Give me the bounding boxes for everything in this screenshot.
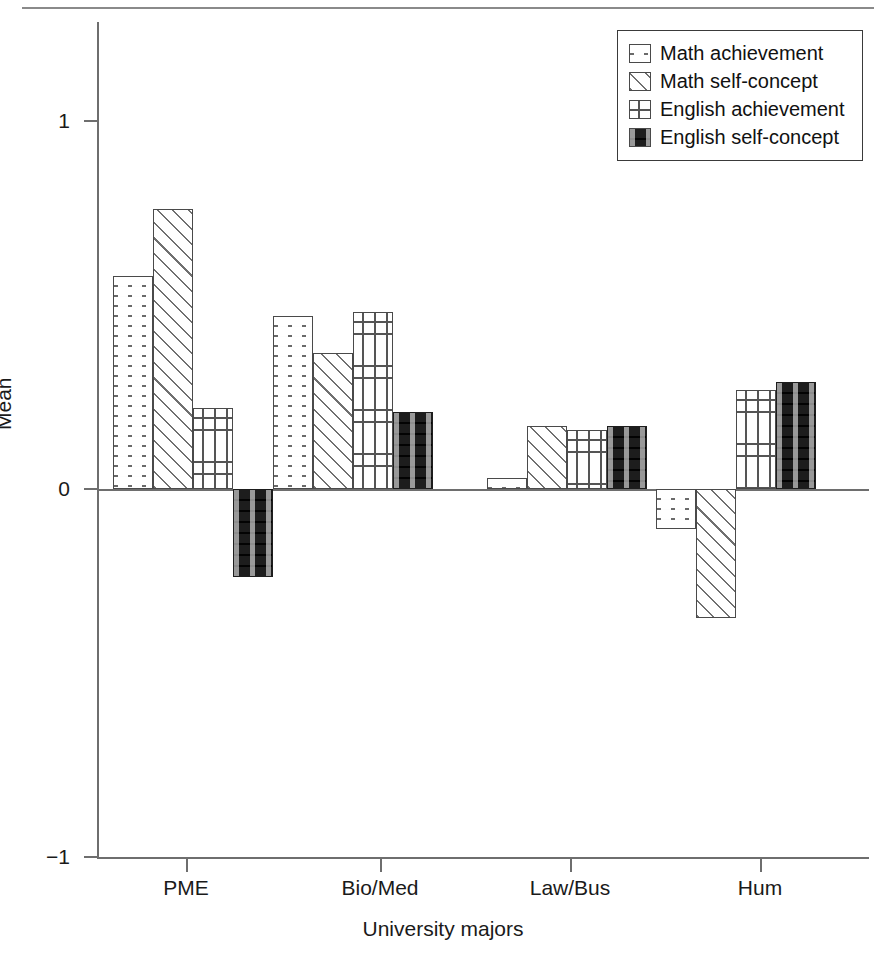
legend-item-label: Math achievement bbox=[660, 43, 823, 63]
bar bbox=[696, 489, 736, 618]
legend-item: English achievement bbox=[629, 95, 852, 123]
legend-item-label: Math self-concept bbox=[660, 71, 818, 91]
bar-chart-figure: Mean University majors 10−1 PMEBio/MedLa… bbox=[0, 0, 886, 969]
x-tick-label: Law/Bus bbox=[490, 876, 650, 900]
bar bbox=[567, 430, 607, 489]
x-tick-mark bbox=[760, 859, 762, 872]
x-tick-label: Bio/Med bbox=[300, 876, 460, 900]
bar bbox=[656, 489, 696, 529]
legend-swatch-icon bbox=[629, 100, 651, 119]
y-tick-label: 1 bbox=[30, 110, 70, 131]
x-tick-label: PME bbox=[106, 876, 266, 900]
legend-item-label: English self-concept bbox=[660, 127, 839, 147]
bar bbox=[776, 382, 816, 489]
bar bbox=[487, 478, 527, 489]
bar bbox=[607, 426, 647, 489]
y-tick-label: −1 bbox=[30, 846, 70, 867]
bar bbox=[233, 489, 273, 577]
y-tick-mark bbox=[84, 856, 98, 858]
bar bbox=[393, 412, 433, 489]
legend-item-label: English achievement bbox=[660, 99, 845, 119]
bar bbox=[153, 209, 193, 489]
legend-swatch-icon bbox=[629, 128, 651, 147]
bar bbox=[353, 312, 393, 489]
bar bbox=[113, 276, 153, 489]
bar bbox=[273, 316, 313, 489]
x-axis-title: University majors bbox=[0, 917, 886, 941]
legend-item: Math self-concept bbox=[629, 67, 852, 95]
x-tick-mark bbox=[380, 859, 382, 872]
bar bbox=[736, 390, 776, 489]
y-axis-title: Mean bbox=[0, 377, 16, 430]
chart-legend: Math achievementMath self-conceptEnglish… bbox=[617, 30, 863, 161]
legend-swatch-icon bbox=[629, 44, 651, 63]
x-tick-mark bbox=[186, 859, 188, 872]
bar bbox=[527, 426, 567, 489]
x-tick-label: Hum bbox=[680, 876, 840, 900]
x-tick-mark bbox=[570, 859, 572, 872]
bar bbox=[193, 408, 233, 489]
y-tick-mark bbox=[84, 120, 98, 122]
y-tick-label: 0 bbox=[30, 478, 70, 499]
y-tick-mark bbox=[84, 488, 98, 490]
bar bbox=[313, 353, 353, 489]
legend-item: English self-concept bbox=[629, 123, 852, 151]
legend-item: Math achievement bbox=[629, 39, 852, 67]
legend-swatch-icon bbox=[629, 72, 651, 91]
